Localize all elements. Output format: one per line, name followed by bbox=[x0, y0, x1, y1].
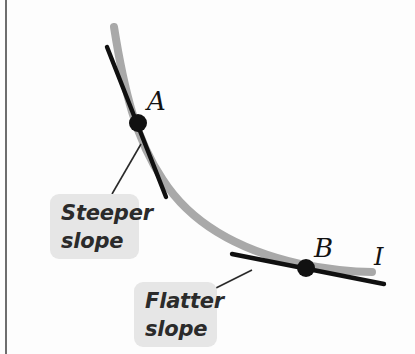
curve-label-i: I bbox=[374, 245, 383, 269]
point-b-marker bbox=[297, 259, 315, 277]
indifference-curve bbox=[114, 27, 372, 272]
callout-flatter-slope: Flatter slope bbox=[134, 282, 217, 347]
point-a-marker bbox=[129, 114, 147, 132]
figure-indifference-curve: A B I Steeper slope Flatter slope bbox=[0, 0, 415, 354]
point-b-label: B bbox=[314, 235, 333, 261]
leader-line-steeper bbox=[112, 144, 141, 194]
leader-line-flatter bbox=[214, 270, 252, 289]
callout-steeper-slope: Steeper slope bbox=[50, 194, 139, 259]
point-a-label: A bbox=[147, 88, 166, 114]
